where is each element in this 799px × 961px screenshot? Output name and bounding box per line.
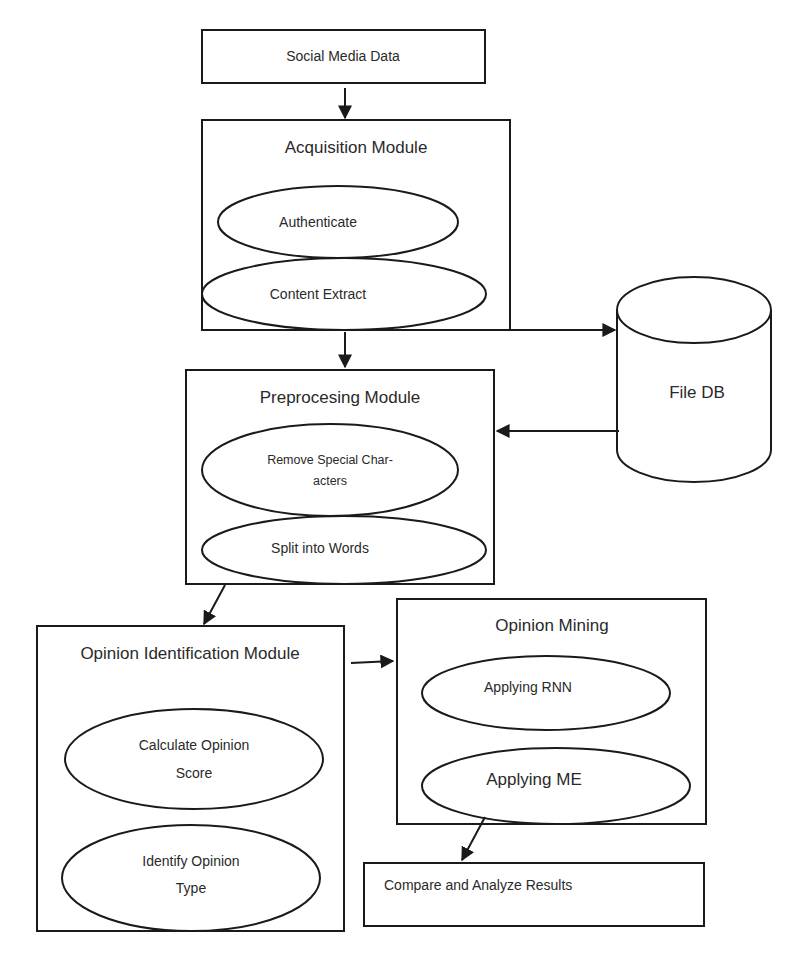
acquisition-module-title: Acquisition Module [285, 138, 428, 157]
remove-special-characters-step [202, 424, 458, 516]
preprocessing-module-title: Preprocesing Module [260, 388, 421, 407]
calculate-opinion-score-label-line2: Score [176, 765, 213, 781]
identify-opinion-type-label-line2: Type [176, 880, 207, 896]
applying-rnn-label: Applying RNN [484, 679, 572, 695]
compare-analyze-results-label: Compare and Analyze Results [384, 877, 572, 893]
calculate-opinion-score-label-line1: Calculate Opinion [139, 737, 250, 753]
content-extract-label: Content Extract [270, 286, 367, 302]
preprocessing-module: Preprocesing Module Remove Special Char-… [186, 370, 494, 584]
arrow-preprocessing-to-opinion-identification [204, 585, 225, 624]
file-db-label: File DB [669, 383, 725, 402]
file-db-cylinder: File DB [617, 277, 771, 482]
opinion-mining-module: Opinion Mining Applying RNN Applying ME [397, 599, 706, 824]
identify-opinion-type-label-line1: Identify Opinion [142, 853, 239, 869]
applying-me-label: Applying ME [486, 770, 581, 789]
authenticate-label: Authenticate [279, 214, 357, 230]
opinion-identification-module: Opinion Identification Module Calculate … [37, 626, 344, 931]
remove-special-characters-label-line2: acters [313, 474, 347, 488]
remove-special-characters-label-line1: Remove Special Char- [267, 453, 393, 467]
opinion-mining-title: Opinion Mining [495, 616, 608, 635]
social-media-data-label: Social Media Data [286, 48, 400, 64]
opinion-identification-module-title: Opinion Identification Module [80, 644, 299, 663]
arrow-opinion-identification-to-mining [351, 661, 393, 663]
compare-analyze-results-node: Compare and Analyze Results [364, 863, 704, 926]
calculate-opinion-score-step [65, 709, 323, 809]
flow-diagram: Social Media Data Acquisition Module Aut… [0, 0, 799, 961]
split-into-words-label: Split into Words [271, 540, 369, 556]
acquisition-module: Acquisition Module Authenticate Content … [202, 120, 510, 330]
social-media-data-node: Social Media Data [202, 30, 485, 83]
identify-opinion-type-step [62, 825, 320, 931]
